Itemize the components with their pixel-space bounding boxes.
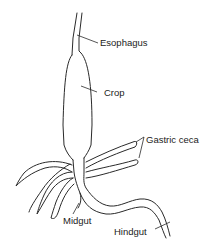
gastric-ceca-label: Gastric ceca <box>146 134 200 145</box>
crop-leader <box>81 86 97 92</box>
gastric-ceca-leader <box>136 137 144 158</box>
hindgut-label: Hindgut <box>114 226 147 237</box>
digestive-tract-diagram: Esophagus Crop Gastric ceca Midgut Hindg… <box>0 0 214 249</box>
esophagus-label: Esophagus <box>100 37 148 48</box>
esophagus-leader <box>77 35 98 43</box>
crop-structure <box>63 53 92 160</box>
midgut-leader <box>73 203 79 214</box>
crop-label: Crop <box>104 87 125 98</box>
esophagus-structure <box>72 13 82 55</box>
midgut-label: Midgut <box>63 215 92 226</box>
